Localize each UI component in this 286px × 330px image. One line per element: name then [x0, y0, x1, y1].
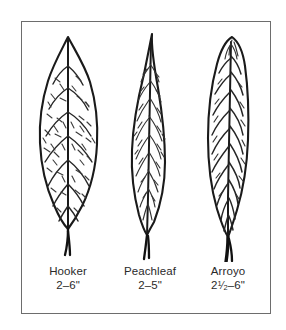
hooker-petiole-fork: [68, 231, 70, 255]
leaf-column-arroyo: Arroyo 21⁄2–6": [186, 22, 270, 313]
figure-root: Hooker 2–6": [0, 0, 286, 330]
caption-peachleaf: Peachleaf 2–5": [110, 265, 190, 292]
hooker-leaf-illustration: [24, 26, 112, 262]
arroyo-petiole-group: [226, 237, 232, 262]
peachleaf-petiole-fork: [148, 236, 149, 258]
caption-hooker: Hooker 2–6": [24, 265, 112, 292]
arroyo-petiole-fork: [229, 239, 232, 261]
figure-frame-border: Hooker 2–6": [21, 21, 271, 314]
arroyo-blade-group: [208, 37, 248, 237]
leaf-name-arroyo: Arroyo: [186, 265, 270, 279]
peachleaf-leaf-illustration: [110, 26, 190, 262]
leaf-name-peachleaf: Peachleaf: [110, 265, 190, 279]
hooker-blade-group: [40, 37, 97, 229]
hooker-petiole-group: [65, 229, 70, 255]
peachleaf-petiole-group: [144, 235, 149, 259]
leaf-name-hooker: Hooker: [24, 265, 112, 279]
leaf-size-peachleaf: 2–5": [110, 279, 190, 293]
peachleaf-petiole: [144, 235, 147, 259]
arroyo-size-range: –6": [228, 279, 245, 291]
arroyo-petiole: [226, 237, 228, 262]
peachleaf-blade-group: [132, 34, 165, 235]
caption-arroyo: Arroyo 21⁄2–6": [186, 265, 270, 292]
leaf-column-hooker: Hooker 2–6": [24, 22, 112, 313]
leaf-size-arroyo: 21⁄2–6": [186, 279, 270, 293]
leaf-size-hooker: 2–6": [24, 279, 112, 293]
arroyo-leaf-illustration: [186, 26, 270, 262]
leaf-column-peachleaf: Peachleaf 2–5": [110, 22, 190, 313]
leaf-plate: Hooker 2–6": [22, 22, 270, 313]
